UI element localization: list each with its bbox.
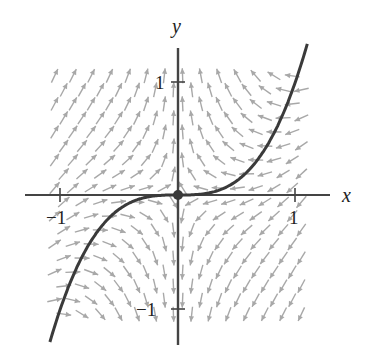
- arrowhead-icon: [216, 301, 221, 307]
- arrowhead-icon: [250, 215, 256, 220]
- direction-field-plot: x y −1 1 1 −1: [0, 0, 370, 362]
- arrowhead-icon: [171, 288, 176, 294]
- arrowhead-icon: [189, 260, 194, 266]
- arrowhead-icon: [171, 138, 176, 144]
- arrowhead-icon: [297, 230, 302, 236]
- arrowhead-icon: [198, 125, 203, 131]
- arrowhead-icon: [180, 124, 185, 130]
- arrowhead-icon: [56, 297, 62, 302]
- arrowhead-icon: [93, 242, 99, 247]
- arrowhead-icon: [276, 144, 282, 149]
- arrowhead-icon: [216, 69, 221, 75]
- arrowhead-icon: [171, 260, 176, 266]
- arrowhead-icon: [153, 259, 158, 265]
- arrowhead-icon: [180, 68, 185, 73]
- y-axis-label: y: [170, 15, 181, 38]
- arrowhead-icon: [171, 316, 176, 321]
- arrowhead-icon: [84, 256, 89, 261]
- arrowhead-icon: [266, 129, 271, 134]
- arrowhead-icon: [180, 96, 185, 102]
- arrowhead-icon: [257, 143, 263, 148]
- x-axis-label: x: [341, 184, 351, 206]
- arrowhead-icon: [171, 167, 176, 173]
- arrowhead-icon: [102, 228, 107, 233]
- arrowhead-icon: [288, 244, 293, 250]
- arrowhead-icon: [295, 145, 301, 150]
- x-tick-label-neg1: −1: [46, 207, 66, 228]
- arrowhead-icon: [180, 246, 185, 252]
- arrowhead-icon: [279, 258, 284, 264]
- arrowhead-icon: [230, 157, 236, 162]
- arrowhead-icon: [74, 298, 80, 303]
- arrowhead-icon: [91, 299, 97, 304]
- arrowhead-icon: [248, 157, 253, 162]
- arrowhead-icon: [54, 154, 59, 160]
- equilibrium-point: [173, 190, 183, 200]
- arrowhead-icon: [120, 228, 126, 233]
- x-tick-label-pos1: 1: [289, 207, 299, 228]
- arrowhead-icon: [171, 110, 176, 116]
- arrowhead-icon: [171, 82, 176, 88]
- arrowhead-icon: [259, 86, 265, 91]
- arrowhead-icon: [127, 272, 132, 278]
- arrowhead-icon: [189, 110, 194, 116]
- arrowhead-icon: [249, 186, 255, 191]
- arrowhead-icon: [55, 240, 61, 245]
- arrowhead-icon: [83, 284, 89, 289]
- arrowhead-icon: [198, 68, 203, 74]
- arrowhead-icon: [135, 83, 140, 89]
- arrowhead-icon: [207, 287, 212, 293]
- y-tick-label-pos1: 1: [155, 72, 165, 93]
- arrowhead-icon: [63, 140, 68, 146]
- arrowhead-icon: [276, 87, 282, 92]
- arrowhead-icon: [221, 200, 227, 205]
- arrowhead-icon: [162, 274, 167, 280]
- arrowhead-icon: [198, 302, 203, 308]
- arrowhead-icon: [129, 185, 135, 190]
- arrowhead-icon: [180, 274, 185, 280]
- arrowhead-icon: [144, 97, 149, 103]
- arrowhead-icon: [180, 302, 185, 308]
- arrowhead-icon: [74, 241, 80, 246]
- arrowhead-icon: [224, 112, 229, 118]
- arrowhead-icon: [294, 88, 300, 93]
- arrowhead-icon: [72, 126, 77, 132]
- arrowhead-icon: [101, 170, 107, 175]
- arrowhead-icon: [267, 101, 273, 106]
- arrowhead-icon: [101, 199, 107, 204]
- arrowhead-icon: [162, 125, 167, 131]
- arrowhead-icon: [180, 218, 185, 224]
- y-tick-label-neg1: −1: [136, 299, 156, 320]
